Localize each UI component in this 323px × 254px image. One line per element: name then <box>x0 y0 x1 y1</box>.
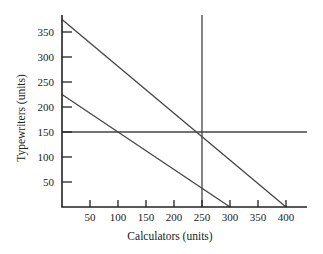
series-line-1 <box>62 20 286 208</box>
axes <box>61 15 307 207</box>
series-layer <box>62 15 307 207</box>
x-tick-label: 350 <box>250 211 267 223</box>
y-tick-label: 200 <box>38 101 55 113</box>
ticks: 5010015020025030035040050100150200250300… <box>38 26 295 223</box>
y-axis-label: Typewriters (units) <box>15 74 28 162</box>
y-tick-label: 250 <box>38 76 55 88</box>
y-tick-label: 350 <box>38 26 55 38</box>
x-tick-label: 250 <box>194 211 211 223</box>
x-tick-label: 100 <box>110 211 127 223</box>
x-axis-label: Calculators (units) <box>127 230 212 243</box>
y-tick-label: 300 <box>38 51 55 63</box>
x-tick-label: 50 <box>85 211 97 223</box>
x-tick-label: 300 <box>222 211 239 223</box>
y-tick-label: 50 <box>43 176 55 188</box>
x-tick-label: 200 <box>166 211 183 223</box>
x-tick-label: 400 <box>278 211 295 223</box>
series-line-2 <box>62 95 230 208</box>
x-tick-label: 150 <box>138 211 155 223</box>
y-tick-label: 100 <box>38 151 55 163</box>
y-tick-label: 150 <box>38 126 55 138</box>
chart: 5010015020025030035040050100150200250300… <box>0 0 323 254</box>
